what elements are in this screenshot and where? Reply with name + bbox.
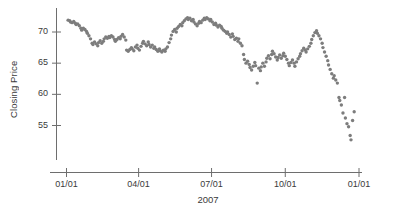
data-points xyxy=(66,16,355,142)
y-axis-tick-label: 55 xyxy=(22,120,48,130)
data-point xyxy=(334,78,337,81)
data-point xyxy=(264,60,267,63)
data-point xyxy=(299,52,302,55)
data-point xyxy=(250,68,253,71)
data-point xyxy=(337,96,340,99)
data-point xyxy=(291,58,294,61)
data-point xyxy=(272,52,275,55)
data-point xyxy=(321,46,324,49)
x-axis-tick-label: 01/01 xyxy=(49,179,85,189)
data-point xyxy=(278,53,281,56)
data-point xyxy=(308,45,311,48)
data-point xyxy=(332,74,335,77)
data-point xyxy=(304,50,307,53)
data-point xyxy=(135,43,138,46)
data-point xyxy=(96,44,99,47)
data-point xyxy=(352,110,355,113)
data-point xyxy=(254,64,257,67)
data-point xyxy=(317,34,320,37)
x-axis-tick-label: 10/01 xyxy=(267,179,303,189)
data-point xyxy=(282,51,285,54)
data-point xyxy=(348,134,351,137)
data-point xyxy=(237,37,240,40)
data-point xyxy=(248,63,251,66)
data-point xyxy=(240,44,243,47)
y-axis-title: Closing Price xyxy=(6,46,20,132)
y-axis-tick-label: 60 xyxy=(22,88,48,98)
data-point xyxy=(324,55,327,58)
data-point xyxy=(293,65,296,68)
data-point xyxy=(139,45,142,48)
data-point xyxy=(341,111,344,114)
data-point xyxy=(351,119,354,122)
data-point xyxy=(310,38,313,41)
x-axis-tick-label: 04/01 xyxy=(121,179,157,189)
data-point xyxy=(261,61,264,64)
data-point xyxy=(246,60,249,63)
data-point xyxy=(309,42,312,45)
data-point xyxy=(89,37,92,40)
y-axis-tick-label: 65 xyxy=(22,57,48,67)
data-point xyxy=(166,45,169,48)
data-point xyxy=(295,60,298,63)
y-axis-tick-label: 70 xyxy=(22,26,48,36)
data-point xyxy=(328,68,331,71)
data-point xyxy=(87,34,90,37)
data-point xyxy=(263,65,266,68)
data-point xyxy=(344,116,347,119)
data-point xyxy=(327,63,330,66)
data-point xyxy=(284,55,287,58)
data-point xyxy=(267,54,270,57)
data-point xyxy=(169,37,172,40)
data-point xyxy=(243,58,246,61)
data-point xyxy=(259,69,262,72)
data-point xyxy=(340,103,343,106)
data-point xyxy=(242,53,245,56)
data-point xyxy=(167,41,170,44)
data-point xyxy=(123,35,126,38)
data-point xyxy=(180,24,183,27)
data-point xyxy=(268,57,271,60)
closing-price-scatter-chart: 55606570 01/0104/0107/0110/0101/01 Closi… xyxy=(0,0,396,217)
data-point xyxy=(312,34,315,37)
data-point xyxy=(288,64,291,67)
data-point xyxy=(175,30,178,33)
data-point xyxy=(343,96,346,99)
data-point xyxy=(336,81,339,84)
data-point xyxy=(323,50,326,53)
data-point xyxy=(345,122,348,125)
x-axis-tick-label: 01/01 xyxy=(341,179,377,189)
data-point xyxy=(253,61,256,64)
data-point xyxy=(170,33,173,36)
data-point xyxy=(132,49,135,52)
data-point xyxy=(338,99,341,102)
data-point xyxy=(124,38,127,41)
data-point xyxy=(138,48,141,51)
data-point xyxy=(320,42,323,45)
data-point xyxy=(285,58,288,61)
data-point xyxy=(231,35,234,38)
data-point xyxy=(260,65,263,68)
data-point xyxy=(319,37,322,40)
x-axis-tick-label: 07/01 xyxy=(194,179,230,189)
data-point xyxy=(349,138,352,141)
x-axis-title: 2007 xyxy=(178,194,238,205)
data-point xyxy=(326,59,329,62)
data-point xyxy=(347,125,350,128)
data-point xyxy=(256,81,259,84)
